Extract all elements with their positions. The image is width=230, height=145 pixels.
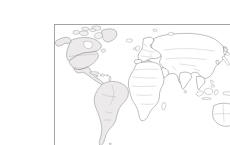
island-hispaniola[interactable] [100,74,105,76]
island-falklands[interactable] [109,143,112,144]
island-jamaica[interactable] [96,75,99,76]
island-puerto-rico[interactable] [106,75,109,76]
island-sri-lanka[interactable] [184,91,186,94]
island-java[interactable] [202,97,211,99]
island-borneo[interactable] [204,88,212,94]
world-map-svg[interactable] [40,16,230,145]
world-map-figure [40,16,230,145]
page-canvas [0,0,230,145]
island-iceland[interactable] [126,39,132,43]
island-banks[interactable] [73,30,80,34]
island-melville[interactable] [82,27,89,31]
island-devon[interactable] [90,29,96,32]
